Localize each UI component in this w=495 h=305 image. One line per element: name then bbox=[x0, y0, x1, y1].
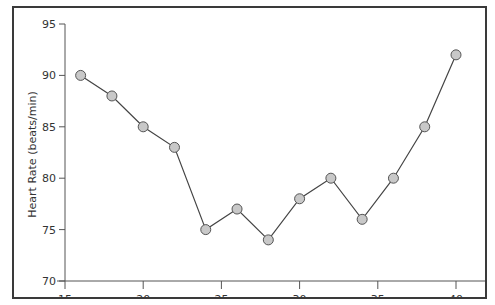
chart-frame: Heart Rate (beats/min) 70758085909515202… bbox=[12, 6, 487, 299]
x-tick-label: 20 bbox=[136, 293, 150, 297]
data-point-marker bbox=[451, 50, 461, 60]
data-line bbox=[81, 55, 456, 240]
y-tick-label: 80 bbox=[42, 172, 56, 185]
data-point-marker bbox=[201, 225, 211, 235]
y-tick-label: 75 bbox=[42, 224, 56, 237]
data-point-marker bbox=[107, 91, 117, 101]
data-point-marker bbox=[232, 204, 242, 214]
line-chart: 707580859095152025303540 bbox=[14, 8, 485, 297]
data-point-marker bbox=[388, 173, 398, 183]
data-point-marker bbox=[326, 173, 336, 183]
x-tick-label: 30 bbox=[293, 293, 307, 297]
data-point-marker bbox=[169, 142, 179, 152]
data-point-marker bbox=[138, 122, 148, 132]
data-point-marker bbox=[76, 70, 86, 80]
data-point-marker bbox=[420, 122, 430, 132]
y-tick-label: 95 bbox=[42, 18, 56, 31]
y-tick-label: 70 bbox=[42, 275, 56, 288]
data-point-marker bbox=[357, 214, 367, 224]
x-tick-label: 35 bbox=[371, 293, 385, 297]
x-tick-label: 40 bbox=[449, 293, 463, 297]
x-tick-label: 15 bbox=[58, 293, 72, 297]
y-tick-label: 85 bbox=[42, 121, 56, 134]
data-point-marker bbox=[295, 194, 305, 204]
x-tick-label: 25 bbox=[214, 293, 228, 297]
y-tick-label: 90 bbox=[42, 69, 56, 82]
data-point-marker bbox=[263, 235, 273, 245]
